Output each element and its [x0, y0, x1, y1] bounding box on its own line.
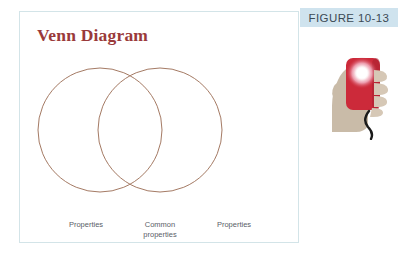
hand-finger-4 — [370, 108, 383, 117]
hand-finger-2 — [374, 83, 388, 95]
hand-finger-1 — [374, 70, 387, 82]
device-glow-core — [357, 68, 368, 79]
hand-holding-light-meter-illustration — [322, 40, 398, 140]
venn-circle-left — [38, 68, 162, 192]
figure-root: FIGURE 10-13 Venn Diagram Properties Com… — [0, 0, 398, 257]
venn-label-center: Common properties — [125, 220, 195, 240]
diagram-panel: Venn Diagram Properties Common propertie… — [19, 11, 299, 243]
venn-label-left: Properties — [46, 220, 126, 230]
venn-label-group: Properties Common properties Properties — [20, 212, 300, 244]
venn-label-center-line2: properties — [143, 230, 176, 239]
venn-circle-right — [98, 68, 222, 192]
venn-label-center-line1: Common — [145, 220, 175, 229]
hand-finger-3 — [374, 96, 387, 107]
hand-thumb-shape — [332, 82, 345, 100]
venn-label-right: Properties — [194, 220, 274, 230]
figure-number-band: FIGURE 10-13 — [300, 8, 398, 27]
venn-circles-graphic — [20, 12, 300, 244]
figure-number-label: FIGURE 10-13 — [309, 12, 390, 24]
hand-device-graphic — [322, 40, 398, 140]
